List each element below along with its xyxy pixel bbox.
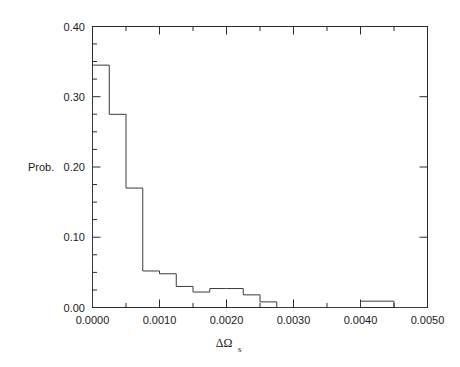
x-tick-label-0: 0.0000 — [76, 314, 110, 326]
x-axis-label-subscript: s — [238, 344, 242, 354]
y-axis-label: Prob. — [28, 161, 54, 173]
y-tick-label-1: 0.10 — [64, 231, 85, 243]
y-tick-label-3: 0.30 — [64, 91, 85, 103]
y-tick-label-2: 0.20 — [64, 161, 85, 173]
x-tick-label-2: 0.0020 — [210, 314, 244, 326]
histogram-figure: 0.00 0.10 0.20 0.30 0.40 Prob. 0.0000 0.… — [0, 0, 460, 367]
x-tick-label-4: 0.0040 — [344, 314, 378, 326]
x-tick-label-3: 0.0030 — [277, 314, 311, 326]
y-tick-label-0: 0.00 — [64, 302, 85, 314]
x-axis-label: ΔΩ — [216, 336, 233, 350]
x-tick-label-5: 0.0050 — [411, 314, 445, 326]
chart-svg: 0.00 0.10 0.20 0.30 0.40 Prob. 0.0000 0.… — [0, 0, 460, 367]
x-tick-label-1: 0.0010 — [143, 314, 177, 326]
y-tick-label-4: 0.40 — [64, 21, 85, 33]
